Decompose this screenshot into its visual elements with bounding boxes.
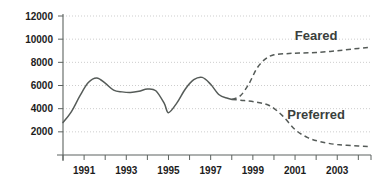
series-line-feared: [232, 47, 371, 99]
y-tick-label-8000: 8000: [31, 57, 54, 68]
x-tick-label-1995: 1995: [157, 165, 180, 176]
y-tick-label-10000: 10000: [25, 34, 53, 45]
series-annotations: FearedPreferred: [287, 28, 345, 121]
line-chart: 20004000600080001000012000 1991199319951…: [0, 0, 385, 189]
x-tick-label-1997: 1997: [200, 165, 223, 176]
chart-canvas: 20004000600080001000012000 1991199319951…: [0, 0, 385, 189]
y-tick-label-6000: 6000: [31, 80, 54, 91]
series-line-historical: [63, 77, 232, 122]
annotation-preferred: Preferred: [287, 107, 345, 122]
x-tick-label-2001: 2001: [284, 165, 307, 176]
y-tick-label-12000: 12000: [25, 11, 53, 22]
annotation-feared: Feared: [295, 28, 338, 43]
x-tick-label-1993: 1993: [115, 165, 138, 176]
x-axis-tick-labels: 1991199319951997199920012003: [73, 165, 349, 176]
x-tick-label-1999: 1999: [242, 165, 265, 176]
y-tick-label-4000: 4000: [31, 103, 54, 114]
x-tick-label-2003: 2003: [326, 165, 349, 176]
y-axis-tick-labels: 20004000600080001000012000: [25, 11, 53, 138]
y-tick-label-2000: 2000: [31, 126, 54, 137]
x-tick-label-1991: 1991: [73, 165, 96, 176]
